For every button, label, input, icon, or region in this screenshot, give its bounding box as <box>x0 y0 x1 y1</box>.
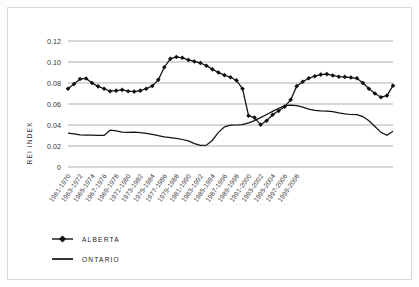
x-tick-labels-group: 1961-19701963-19721965-19741967-19761969… <box>47 172 300 203</box>
data-point-marker <box>318 72 323 77</box>
data-point-marker <box>331 73 336 78</box>
data-point-marker <box>138 88 143 93</box>
data-point-marker <box>126 89 131 94</box>
data-point-marker <box>198 61 203 66</box>
data-point-marker <box>186 58 191 63</box>
legend-label-ontario: ONTARIO <box>82 256 120 263</box>
data-point-marker <box>132 89 137 94</box>
data-point-marker <box>108 89 113 94</box>
y-tick-label: 0.06 <box>47 100 61 109</box>
data-point-marker <box>102 86 107 91</box>
data-point-marker <box>337 74 342 79</box>
legend: ALBERTA ONTARIO <box>52 235 120 262</box>
data-point-marker <box>180 56 185 61</box>
data-point-marker <box>144 86 149 91</box>
y-tick-label: 0 <box>57 163 61 172</box>
y-axis-title: REI INDEX <box>26 122 33 165</box>
legend-marker-diamond-icon <box>59 235 66 242</box>
data-point-marker <box>216 70 221 75</box>
chart-canvas: 00.020.040.060.080.100.12 1961-19701963-… <box>0 0 419 287</box>
data-point-marker <box>222 73 227 78</box>
data-point-marker <box>114 88 119 93</box>
y-tick-label: 0.10 <box>47 58 61 67</box>
data-point-marker <box>246 113 251 118</box>
data-point-marker <box>324 72 329 77</box>
data-point-marker <box>349 75 354 80</box>
series-markers-alberta <box>66 55 396 127</box>
data-point-marker <box>120 88 125 93</box>
y-tick-labels-group: 00.020.040.060.080.100.12 <box>47 37 61 172</box>
data-point-marker <box>174 55 179 60</box>
data-point-marker <box>343 75 348 80</box>
chart-svg: 00.020.040.060.080.100.12 1961-19701963-… <box>0 0 419 287</box>
legend-label-alberta: ALBERTA <box>82 236 120 243</box>
data-point-marker <box>228 75 233 80</box>
chart-figure: 00.020.040.060.080.100.12 1961-19701963-… <box>0 0 419 287</box>
y-tick-label: 0.08 <box>47 79 61 88</box>
y-tick-label: 0.02 <box>47 142 61 151</box>
data-point-marker <box>192 59 197 64</box>
data-point-marker <box>312 74 317 79</box>
y-tick-label: 0.04 <box>47 121 61 130</box>
gridlines-group <box>68 41 393 167</box>
y-tick-label: 0.12 <box>47 37 61 46</box>
